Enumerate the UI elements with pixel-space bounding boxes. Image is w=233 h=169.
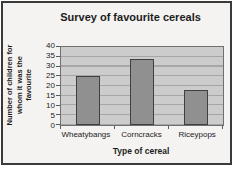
y-tick-label: 15	[46, 91, 55, 101]
x-axis-tick-marks	[60, 126, 223, 129]
x-axis-category-labels: Wheatybangs Corncracks Riceypops	[58, 130, 225, 139]
bar-riceypops	[184, 90, 208, 125]
y-tick-label: 5	[51, 111, 55, 121]
plot-area	[60, 46, 224, 126]
chart-window: Survey of favourite cereals Number of ch…	[1, 1, 232, 165]
x-category-label: Wheatybangs	[58, 130, 114, 139]
y-tick-label: 40	[46, 41, 55, 51]
y-axis-label-line: Number of children for	[5, 45, 14, 126]
bar-corncracks	[130, 59, 154, 125]
y-tick-label: 10	[46, 101, 55, 111]
y-tick-label: 20	[46, 81, 55, 91]
y-axis-label-line: favourite	[24, 69, 33, 101]
bar-series	[61, 47, 223, 125]
x-axis-title: Type of cereal	[60, 146, 222, 156]
y-tick-label: 25	[46, 71, 55, 81]
x-category-label: Riceypops	[169, 130, 225, 139]
y-tick-label: 0	[51, 121, 55, 131]
x-category-label: Corncracks	[114, 130, 170, 139]
y-axis-tick-labels: 40 35 30 25 20 15 10 5 0	[33, 41, 55, 129]
bar-wheatybangs	[76, 76, 100, 125]
y-axis-label-line: whom it was the	[15, 56, 24, 114]
chart-title: Survey of favourite cereals	[29, 11, 232, 23]
y-tick-label: 35	[46, 51, 55, 61]
y-axis-label: Number of children for whom it was the f…	[5, 37, 35, 133]
y-tick-label: 30	[46, 61, 55, 71]
